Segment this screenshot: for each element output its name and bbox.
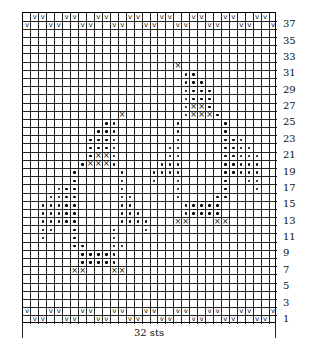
cross-icon: × <box>94 160 102 168</box>
dot-icon <box>118 177 126 185</box>
slip-stitch-v-icon: v <box>126 13 134 21</box>
dot-icon <box>94 144 102 152</box>
dot-icon <box>55 218 63 226</box>
dot-icon <box>142 218 150 226</box>
slip-stitch-v-icon: v <box>23 21 31 29</box>
slip-stitch-v-icon: v <box>253 316 261 324</box>
grid-line-horizontal <box>23 62 277 63</box>
grid-line-horizontal <box>23 283 277 284</box>
dot-icon <box>71 226 79 234</box>
dot-icon <box>190 70 198 78</box>
slip-stitch-v-icon: v <box>87 21 95 29</box>
dot-icon <box>245 169 253 177</box>
row-label: 9 <box>283 248 289 258</box>
dot-icon <box>87 136 95 144</box>
dot-icon <box>206 87 214 95</box>
slip-stitch-v-icon: v <box>23 308 31 316</box>
slip-stitch-v-icon: v <box>245 308 253 316</box>
cross-icon: × <box>102 152 110 160</box>
grid-line-horizontal <box>23 70 277 71</box>
dot-icon <box>118 201 126 209</box>
dot-icon <box>71 193 79 201</box>
dot-icon <box>110 119 118 127</box>
dot-icon <box>166 169 174 177</box>
slip-stitch-v-icon: v <box>166 13 174 21</box>
slip-stitch-v-icon: v <box>71 316 79 324</box>
dot-icon <box>110 226 118 234</box>
dot-icon <box>71 209 79 217</box>
dot-icon <box>221 119 229 127</box>
row-label: 33 <box>283 52 296 62</box>
slip-stitch-v-icon: v <box>94 316 102 324</box>
grid-line-horizontal <box>23 78 277 79</box>
dot-icon <box>221 177 229 185</box>
dot-icon <box>166 144 174 152</box>
dot-icon <box>182 103 190 111</box>
dot-icon <box>118 193 126 201</box>
dot-icon <box>253 160 261 168</box>
slip-stitch-v-icon: v <box>190 13 198 21</box>
grid-line-horizontal <box>23 258 277 259</box>
dot-icon <box>47 201 55 209</box>
grid-line-horizontal <box>23 45 277 46</box>
cross-icon: × <box>214 218 222 226</box>
cross-icon: × <box>206 111 214 119</box>
dot-icon <box>63 193 71 201</box>
dot-icon <box>134 209 142 217</box>
dot-icon <box>174 193 182 201</box>
slip-stitch-v-icon: v <box>47 21 55 29</box>
dot-icon <box>126 201 134 209</box>
dot-icon <box>126 209 134 217</box>
dot-icon <box>110 250 118 258</box>
slip-stitch-v-icon: v <box>261 316 269 324</box>
dot-icon <box>214 201 222 209</box>
grid-line-horizontal <box>23 242 277 243</box>
dot-icon <box>55 193 63 201</box>
slip-stitch-v-icon: v <box>158 13 166 21</box>
row-label: 11 <box>283 232 296 242</box>
dot-icon <box>71 234 79 242</box>
grid-line-horizontal <box>23 233 277 234</box>
dot-icon <box>39 209 47 217</box>
dot-icon <box>198 78 206 86</box>
row-label: 17 <box>283 183 296 193</box>
dot-icon <box>229 160 237 168</box>
slip-stitch-v-icon: v <box>118 21 126 29</box>
slip-stitch-v-icon: v <box>229 13 237 21</box>
dot-icon <box>221 160 229 168</box>
dot-icon <box>47 218 55 226</box>
dot-icon <box>94 128 102 136</box>
dot-icon <box>102 144 110 152</box>
cross-icon: × <box>198 111 206 119</box>
slip-stitch-v-icon: v <box>142 21 150 29</box>
dot-icon <box>79 259 87 267</box>
dot-icon <box>134 218 142 226</box>
dot-icon <box>118 169 126 177</box>
chart-grid: vvvvvvvvvvvvvvvvvvvvvvvvvvvvvvvv××××××××… <box>22 12 276 323</box>
dot-icon <box>39 218 47 226</box>
dot-icon <box>39 201 47 209</box>
cross-icon: × <box>174 218 182 226</box>
dot-icon <box>126 193 134 201</box>
grid-line-horizontal <box>23 111 277 112</box>
row-label: 19 <box>283 167 296 177</box>
dot-icon <box>110 242 118 250</box>
slip-stitch-v-icon: v <box>63 13 71 21</box>
dot-icon <box>253 185 261 193</box>
cross-icon: × <box>221 218 229 226</box>
dot-icon <box>190 95 198 103</box>
dot-icon <box>237 152 245 160</box>
row-label: 35 <box>283 36 296 46</box>
grid-line-horizontal <box>23 53 277 54</box>
dot-icon <box>102 136 110 144</box>
dot-icon <box>79 160 87 168</box>
grid-line-horizontal <box>23 37 277 38</box>
dot-icon <box>245 177 253 185</box>
dot-icon <box>166 152 174 160</box>
dot-icon <box>47 209 55 217</box>
dot-icon <box>63 185 71 193</box>
dot-icon <box>221 144 229 152</box>
slip-stitch-v-icon: v <box>198 13 206 21</box>
dot-icon <box>118 209 126 217</box>
row-label: 7 <box>283 265 289 275</box>
